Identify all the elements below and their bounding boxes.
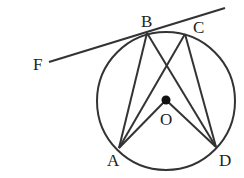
label-d: D	[219, 151, 231, 170]
label-o: O	[160, 110, 172, 129]
segment-ac	[119, 34, 185, 148]
label-b: B	[141, 12, 152, 31]
geometry-diagram: B C F O A D	[0, 0, 244, 178]
center-dot-o	[162, 96, 171, 105]
label-c: C	[193, 18, 204, 37]
label-a: A	[107, 151, 120, 170]
segment-bd	[147, 33, 216, 147]
segment-cd	[185, 34, 216, 147]
label-f: F	[33, 55, 42, 74]
segment-ab	[119, 33, 147, 148]
